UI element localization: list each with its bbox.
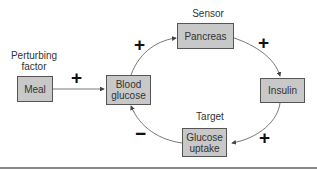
node-meal: Meal: [17, 76, 53, 102]
node-blood-glucose: Blood glucose: [106, 75, 151, 105]
sign-uptake-to-glucose: −: [135, 124, 146, 143]
node-insulin: Insulin: [260, 78, 305, 103]
sign-glucose-to-pancreas: +: [134, 35, 145, 54]
perturbing-factor-label: Perturbing factor: [8, 50, 60, 72]
sign-meal-to-glucose: +: [71, 68, 82, 87]
sensor-label: Sensor: [188, 8, 228, 19]
node-pancreas: Pancreas: [177, 23, 234, 49]
node-glucose-uptake: Glucose uptake: [182, 128, 227, 157]
sign-insulin-to-uptake: +: [259, 128, 270, 147]
sign-pancreas-to-insulin: +: [258, 33, 269, 52]
target-label: Target: [190, 111, 230, 122]
bottom-rule: [0, 167, 317, 169]
